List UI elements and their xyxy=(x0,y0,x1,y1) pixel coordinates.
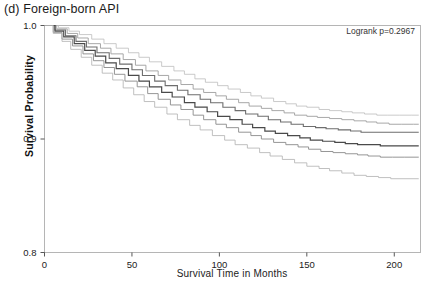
plot-svg xyxy=(0,0,429,287)
logrank-annotation: Logrank p=0.2967 xyxy=(346,26,415,36)
plot-area: 0.80.91.0 050100150200 Survival Probabil… xyxy=(0,0,429,287)
x-tick-marks xyxy=(45,253,395,257)
survival-chart-figure: (d) Foreign-born API 0.80.91.0 050100150… xyxy=(0,0,429,287)
y-tick-label: 0.8 xyxy=(7,247,37,258)
x-axis-label: Survival Time in Months xyxy=(44,268,420,279)
plot-frame xyxy=(45,26,421,253)
y-tick-label: 1.0 xyxy=(7,20,37,31)
y-tick-marks xyxy=(41,26,45,253)
y-axis-label: Survival Probability xyxy=(23,31,35,181)
